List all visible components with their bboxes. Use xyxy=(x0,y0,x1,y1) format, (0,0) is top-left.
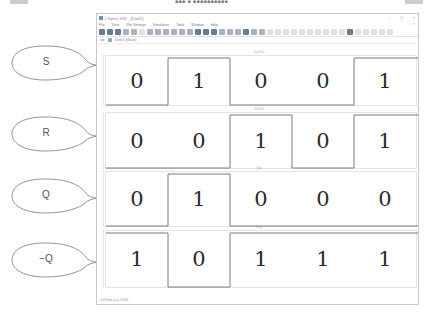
zoom-fit-icon[interactable] xyxy=(171,29,177,35)
tab-waveform[interactable]: Draft1 [Wave] xyxy=(115,38,136,42)
waveform-panel-r[interactable]: V(r002) 0 0 1 0 1 xyxy=(101,112,417,169)
digit-row: 1 0 1 1 1 xyxy=(106,231,416,287)
y-axis xyxy=(100,230,104,288)
plot-area[interactable]: 1 0 1 1 1 xyxy=(105,230,417,288)
menu-window[interactable]: Window xyxy=(191,23,203,27)
digit: 1 xyxy=(168,56,230,105)
tab-nav[interactable]: ◂ ▸ xyxy=(100,38,105,42)
minimize-button[interactable]: – xyxy=(388,15,390,20)
digit: 0 xyxy=(106,172,168,226)
title-bar: LTspice XVII - [Draft1] – □ × xyxy=(97,14,418,22)
panel-title: V(s001) xyxy=(101,50,417,54)
paste-icon[interactable] xyxy=(235,29,241,35)
find-icon[interactable] xyxy=(243,29,249,35)
cut-icon[interactable] xyxy=(219,29,225,35)
menu-help[interactable]: Help xyxy=(211,23,218,27)
panel-title: V(r002) xyxy=(101,107,417,111)
digit: 1 xyxy=(354,56,416,105)
header-right-block xyxy=(405,0,423,4)
callout-not-q: −Q xyxy=(0,240,100,280)
menu-file[interactable]: File xyxy=(99,23,105,27)
digit: 0 xyxy=(354,172,416,226)
menu-bar: File View Plot Settings Simulation Tools… xyxy=(97,22,418,28)
mdi-controls[interactable]: – × xyxy=(410,22,415,26)
resistor-icon[interactable] xyxy=(291,29,297,35)
label-icon[interactable] xyxy=(283,29,289,35)
ltspice-window: LTspice XVII - [Draft1] – □ × File View … xyxy=(96,13,419,305)
mirror-icon[interactable] xyxy=(371,29,377,35)
digit: 0 xyxy=(230,56,292,105)
digit: 1 xyxy=(230,113,292,168)
screen-header: ■■■ ■ ■■■■■■■■■■ xyxy=(0,0,429,6)
waveform-tab-icon xyxy=(108,38,112,42)
callout-label: Q xyxy=(12,189,80,200)
capacitor-icon[interactable] xyxy=(299,29,305,35)
waveform-panel-s[interactable]: V(s001) 0 1 0 0 1 xyxy=(101,55,417,106)
digit: 1 xyxy=(292,231,354,287)
zoom-pan-icon[interactable] xyxy=(155,29,161,35)
panel-title: V(q) xyxy=(101,166,417,170)
close-button[interactable]: × xyxy=(413,15,415,20)
callout-s: S xyxy=(0,43,100,83)
maximize-button[interactable]: □ xyxy=(400,15,402,20)
pick-visible-icon[interactable] xyxy=(211,29,217,35)
menu-view[interactable]: View xyxy=(112,23,120,27)
spice-directive-icon[interactable] xyxy=(387,29,393,35)
run-icon[interactable] xyxy=(131,29,137,35)
menu-tools[interactable]: Tools xyxy=(176,23,184,27)
digit: 0 xyxy=(106,56,168,105)
rotate-icon[interactable] xyxy=(363,29,369,35)
status-bar: t=8.6ms y=1.000V xyxy=(100,298,128,302)
halt-icon[interactable] xyxy=(139,29,145,35)
open-folder-icon[interactable] xyxy=(107,29,113,35)
drag-icon[interactable] xyxy=(339,29,345,35)
plot-area[interactable]: 0 1 0 0 1 xyxy=(105,55,417,106)
header-left-block xyxy=(10,0,28,4)
waveform-panel-q[interactable]: V(q) 0 1 0 0 0 xyxy=(101,171,417,227)
digit: 1 xyxy=(230,231,292,287)
inductor-icon[interactable] xyxy=(307,29,313,35)
plot-area[interactable]: 0 1 0 0 0 xyxy=(105,171,417,227)
cascade-icon[interactable] xyxy=(195,29,201,35)
open-icon[interactable] xyxy=(99,29,105,35)
digit: 1 xyxy=(106,231,168,287)
y-axis xyxy=(100,171,104,227)
print-setup-icon[interactable] xyxy=(259,29,265,35)
zoom-out-icon[interactable] xyxy=(163,29,169,35)
copy-icon[interactable] xyxy=(227,29,233,35)
tab-bar: ◂ ▸ Draft1 [Wave] xyxy=(97,37,418,44)
zoom-in-icon[interactable] xyxy=(147,29,153,35)
y-axis xyxy=(100,55,104,106)
digit: 0 xyxy=(106,113,168,168)
digit-row: 0 1 0 0 1 xyxy=(106,56,416,105)
tile-icon[interactable] xyxy=(187,29,193,35)
waveform-panel-not-q[interactable]: V(-q) 1 0 1 1 1 xyxy=(101,230,417,288)
digit-row: 0 0 1 0 1 xyxy=(106,113,416,168)
ground-icon[interactable] xyxy=(275,29,281,35)
menu-simulation[interactable]: Simulation xyxy=(153,23,169,27)
plot-area[interactable]: 0 0 1 0 1 xyxy=(105,112,417,169)
undo-icon[interactable] xyxy=(347,29,353,35)
wire-icon[interactable] xyxy=(267,29,273,35)
redo-icon[interactable] xyxy=(355,29,361,35)
toolbar xyxy=(97,28,418,37)
panel-title: V(-q) xyxy=(101,225,417,229)
component-icon[interactable] xyxy=(323,29,329,35)
text-icon[interactable] xyxy=(379,29,385,35)
print-icon[interactable] xyxy=(251,29,257,35)
callout-label: S xyxy=(12,56,80,67)
callout-label: −Q xyxy=(12,253,80,264)
autorange-icon[interactable] xyxy=(179,29,185,35)
digit: 1 xyxy=(354,231,416,287)
callout-label: R xyxy=(12,127,80,138)
digit: 0 xyxy=(230,172,292,226)
move-icon[interactable] xyxy=(331,29,337,35)
control-panel-icon[interactable] xyxy=(123,29,129,35)
menu-plot-settings[interactable]: Plot Settings xyxy=(126,23,146,27)
window-controls: – □ × xyxy=(388,15,415,20)
close-all-icon[interactable] xyxy=(203,29,209,35)
callout-q: Q xyxy=(0,176,100,216)
digit: 0 xyxy=(292,113,354,168)
save-icon[interactable] xyxy=(115,29,121,35)
diode-icon[interactable] xyxy=(315,29,321,35)
